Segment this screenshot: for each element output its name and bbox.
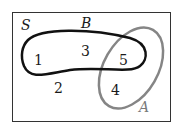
region-1-label: 1 xyxy=(34,52,43,68)
region-5-label: 5 xyxy=(119,52,128,68)
universe-label: S xyxy=(21,17,31,33)
region-2-label: 2 xyxy=(54,80,63,96)
region-4-label: 4 xyxy=(111,82,120,98)
set-a-label: A xyxy=(137,99,149,115)
set-b-label: B xyxy=(80,15,91,31)
venn-diagram: S B A 1 3 5 2 4 xyxy=(0,0,183,129)
region-3-label: 3 xyxy=(81,43,90,59)
